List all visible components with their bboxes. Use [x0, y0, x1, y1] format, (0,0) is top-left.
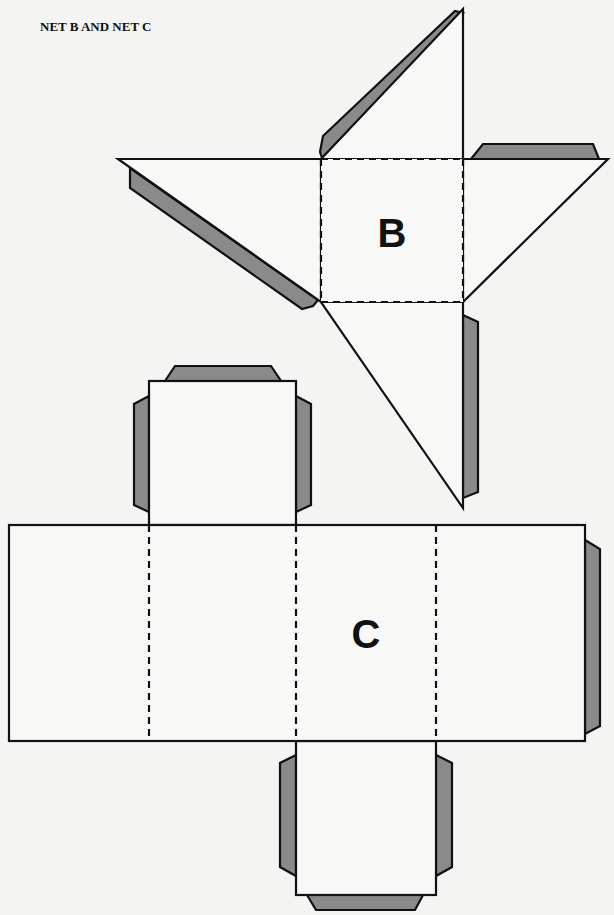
net-c-label: C: [352, 612, 381, 656]
net-b-label: B: [378, 211, 407, 255]
net-c-face-top-square: [149, 381, 296, 525]
net-b-face-left-triangle: [118, 159, 321, 302]
net-c-tab-top-square-right: [296, 396, 311, 512]
net-c-tab-bottom-square-left: [280, 755, 296, 876]
net-c-tab-strip-right: [585, 540, 600, 734]
net-b-face-right-triangle: [463, 159, 608, 302]
net-c-face-bottom-square: [296, 741, 436, 895]
net-b-tab-right-triangle-top: [471, 144, 599, 159]
net-c-tab-top-square-top: [165, 366, 281, 381]
net-c-tab-top-square-left: [134, 396, 149, 512]
net-c-tab-bottom-square-right: [436, 755, 452, 876]
net-b-face-bottom-triangle: [321, 302, 463, 508]
net-b-face-top-triangle: [321, 9, 463, 159]
net-c: C: [9, 366, 600, 910]
net-b-tab-bottom-triangle: [463, 315, 478, 498]
net-c-tab-bottom-square-bottom: [307, 895, 423, 910]
